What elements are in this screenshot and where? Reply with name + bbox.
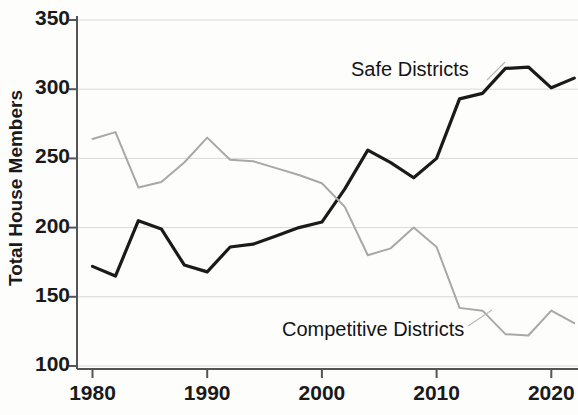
x-tick-label-1990: 1990 (157, 381, 257, 405)
y-axis-label: Total House Members (0, 0, 32, 375)
y-tick-label-100: 100 (12, 352, 70, 376)
x-tick-label-2010: 2010 (387, 381, 487, 405)
y-tick-label-200: 200 (12, 214, 70, 238)
y-axis-label-text: Total House Members (5, 89, 27, 285)
competitive-districts-annotation: Competitive Districts (282, 318, 464, 341)
chart-figure: Total House Members 100150200250300350 1… (0, 0, 578, 415)
y-tick-label-150: 150 (12, 283, 70, 307)
data-series-group (93, 67, 575, 335)
x-tick-label-2020: 2020 (501, 381, 578, 405)
x-tick-marks (93, 369, 552, 378)
y-tick-marks (69, 20, 77, 366)
y-tick-label-350: 350 (12, 6, 70, 30)
series-line-safe-districts (93, 67, 575, 276)
x-tick-label-1980: 1980 (43, 381, 143, 405)
safe-districts-annotation: Safe Districts (351, 58, 469, 81)
line-chart-canvas (0, 0, 578, 415)
y-tick-label-250: 250 (12, 144, 70, 168)
annotation-leader-lines (468, 62, 505, 326)
y-tick-label-300: 300 (12, 75, 70, 99)
x-tick-label-2000: 2000 (272, 381, 372, 405)
